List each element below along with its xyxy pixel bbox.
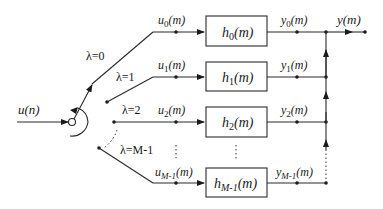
branch-1: λ=1 u1(m) h1(m) y1(m) — [105, 58, 328, 104]
lambda-0-label: λ=0 — [86, 49, 105, 63]
um1-label: uM-1(m) — [155, 165, 193, 181]
lambda-2-label: λ=2 — [122, 103, 141, 117]
y2-label: y2(m) — [280, 103, 308, 119]
branch-2: λ=2 u2(m) h2(m) y2(m) — [112, 103, 328, 137]
y0-label: y0(m) — [280, 13, 308, 29]
u0-label: u0(m) — [158, 13, 185, 29]
lambda-m-1-label: λ=M-1 — [120, 143, 153, 157]
summation-bus — [324, 30, 328, 183]
ym1-label: yM-1(m) — [275, 165, 313, 181]
switch-ellipsis — [104, 130, 117, 148]
input-label: u(n) — [18, 102, 40, 117]
input-signal: u(n) — [17, 102, 68, 122]
u2-label: u2(m) — [158, 103, 185, 119]
h0-label: h0(m) — [222, 25, 254, 42]
lambda-1-label: λ=1 — [116, 70, 135, 84]
branch-m-minus-1: λ=M-1 uM-1(m) hM-1(m) yM-1(m) — [97, 143, 328, 197]
output-signal: y(m) — [326, 12, 367, 34]
commutator-switch-icon — [69, 85, 93, 136]
u1-label: u1(m) — [158, 58, 185, 74]
output-label: y(m) — [335, 12, 361, 27]
h1-label: h1(m) — [222, 70, 254, 87]
polyphase-diagram: u(n) λ=0 u0(m) h0(m) y0(m) λ=1 u1(m) h1(… — [0, 0, 383, 209]
y1-label: y1(m) — [280, 58, 308, 74]
h2-label: h2(m) — [222, 115, 254, 132]
